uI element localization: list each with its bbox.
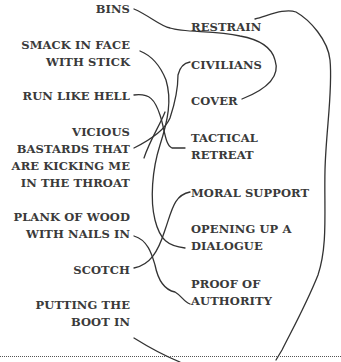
line-vicious-civilians: [134, 62, 190, 148]
line-scotch-moral: [134, 192, 190, 268]
line-plank-proof: [134, 236, 190, 304]
connector-lines: [0, 0, 341, 362]
line-run-tactical: [134, 95, 185, 148]
matching-diagram: BINS SMACK IN FACE WITH STICK RUN LIKE H…: [0, 0, 341, 362]
dotted-divider: [0, 356, 341, 357]
line-boot-cover: [134, 338, 180, 362]
line-cross-vicious: [144, 112, 165, 158]
line-bins-restrain: [134, 9, 276, 99]
line-right-loop: [255, 11, 331, 360]
